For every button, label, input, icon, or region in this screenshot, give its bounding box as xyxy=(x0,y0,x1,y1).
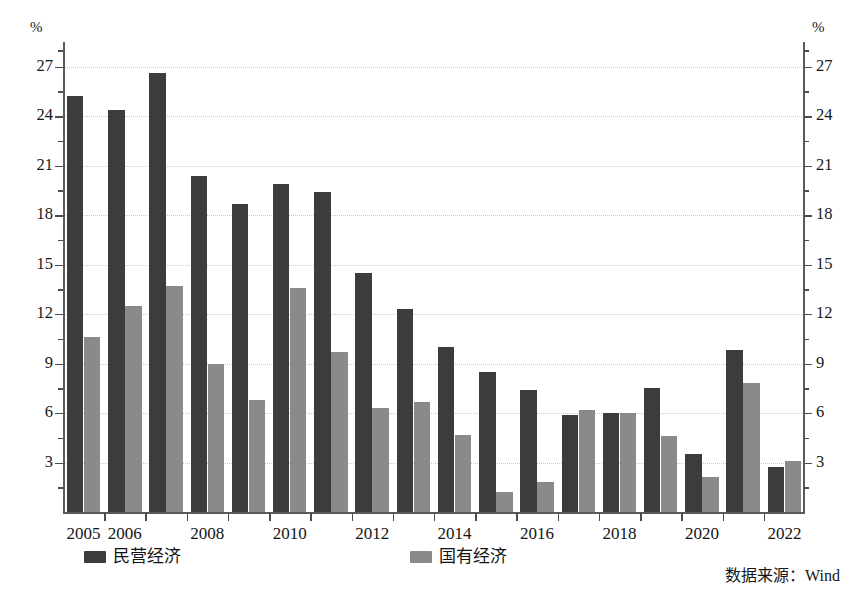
legend-label-state: 国有经济 xyxy=(439,548,507,565)
y-axis-unit-right: % xyxy=(812,20,825,35)
legend-label-private: 民营经济 xyxy=(113,548,181,565)
x-tick-label-2022: 2022 xyxy=(767,525,801,542)
bar-2019-series-1 xyxy=(644,388,661,512)
bar-2011-series-1 xyxy=(314,192,331,512)
bar-2013-series-2 xyxy=(414,402,431,512)
bar-2010-series-1 xyxy=(273,184,290,512)
y-tick-label-left-27: 27 xyxy=(37,58,54,75)
x-tick-2007 xyxy=(187,513,188,521)
bar-2014-series-2 xyxy=(455,435,472,513)
y-tick-label-left-21: 21 xyxy=(37,157,54,174)
x-tick-2018 xyxy=(640,513,641,521)
y-tick-label-left-6: 6 xyxy=(45,404,53,421)
y-axis-right-line xyxy=(803,42,805,513)
y-minor-tick-right-10.5 xyxy=(804,339,809,340)
y-tick-label-right-24: 24 xyxy=(816,107,833,124)
legend-swatch-icon-state xyxy=(410,551,432,563)
bar-2005-series-1 xyxy=(67,96,84,512)
x-tick-2015 xyxy=(516,513,517,521)
y-tick-left-3 xyxy=(55,463,63,464)
y-minor-tick-right-28 xyxy=(804,50,809,51)
bar-2009-series-1 xyxy=(232,204,249,512)
y-tick-label-right-9: 9 xyxy=(816,355,824,372)
y-minor-tick-left-7.5 xyxy=(58,388,63,389)
x-tick-2010 xyxy=(310,513,311,521)
gridline-27 xyxy=(65,67,802,69)
y-tick-right-18 xyxy=(804,215,812,216)
y-tick-right-21 xyxy=(804,166,812,167)
y-minor-tick-right-1.5 xyxy=(804,487,809,488)
y-minor-tick-left-16.5 xyxy=(58,240,63,241)
bar-2018-series-1 xyxy=(603,413,620,512)
x-tick-label-2018: 2018 xyxy=(603,525,637,542)
y-tick-label-left-18: 18 xyxy=(37,206,54,223)
y-minor-tick-right-25.5 xyxy=(804,91,809,92)
bar-2016-series-1 xyxy=(520,390,537,512)
y-tick-left-18 xyxy=(55,215,63,216)
x-tick-2006 xyxy=(145,513,146,521)
x-tick-label-2020: 2020 xyxy=(685,525,719,542)
legend-swatch-icon-private xyxy=(84,551,106,563)
bar-2012-series-1 xyxy=(355,273,372,512)
bar-2021-series-1 xyxy=(726,350,743,512)
legend-item-private-economy: 民营经济 xyxy=(84,548,181,565)
bar-2022-series-1 xyxy=(768,467,785,512)
y-minor-tick-left-25.5 xyxy=(58,91,63,92)
y-tick-label-left-15: 15 xyxy=(37,256,54,273)
y-tick-left-21 xyxy=(55,166,63,167)
bar-chart: % % 336699121215151818212124242727 20052… xyxy=(0,0,852,593)
bar-2007-series-1 xyxy=(149,73,166,512)
y-minor-tick-left-1.5 xyxy=(58,487,63,488)
bar-2013-series-1 xyxy=(397,309,414,512)
y-minor-tick-right-19.5 xyxy=(804,190,809,191)
y-minor-tick-right-13.5 xyxy=(804,289,809,290)
x-tick-label-2005: 2005 xyxy=(67,525,101,542)
y-minor-tick-left-19.5 xyxy=(58,190,63,191)
x-tick-label-2014: 2014 xyxy=(438,525,472,542)
x-tick-2008 xyxy=(228,513,229,521)
y-tick-left-6 xyxy=(55,413,63,414)
bar-2006-series-1 xyxy=(108,110,125,512)
bar-2019-series-2 xyxy=(661,436,678,512)
y-minor-tick-right-4.5 xyxy=(804,438,809,439)
x-tick-label-2008: 2008 xyxy=(190,525,224,542)
gridline-18 xyxy=(65,215,802,217)
y-tick-right-27 xyxy=(804,67,812,68)
y-tick-right-3 xyxy=(804,463,812,464)
x-tick-label-2016: 2016 xyxy=(520,525,554,542)
gridline-24 xyxy=(65,116,802,118)
y-tick-right-6 xyxy=(804,413,812,414)
x-tick-2021 xyxy=(764,513,765,521)
y-minor-tick-left-28 xyxy=(58,50,63,51)
gridline-15 xyxy=(65,265,802,267)
gridline-21 xyxy=(65,166,802,168)
bar-2015-series-2 xyxy=(496,492,513,512)
x-tick-label-2006: 2006 xyxy=(108,525,142,542)
bar-2022-series-2 xyxy=(785,461,802,512)
y-minor-tick-right-22.5 xyxy=(804,141,809,142)
bar-2007-series-2 xyxy=(166,286,183,512)
y-minor-tick-right-7.5 xyxy=(804,388,809,389)
y-tick-left-27 xyxy=(55,67,63,68)
y-minor-tick-left-13.5 xyxy=(58,289,63,290)
bar-2006-series-2 xyxy=(125,306,142,512)
y-tick-left-24 xyxy=(55,116,63,117)
bar-2020-series-1 xyxy=(685,454,702,512)
x-tick-2012 xyxy=(393,513,394,521)
y-minor-tick-left-4.5 xyxy=(58,438,63,439)
y-tick-right-24 xyxy=(804,116,812,117)
y-tick-label-left-24: 24 xyxy=(37,107,54,124)
bar-2016-series-2 xyxy=(537,482,554,512)
bar-2021-series-2 xyxy=(743,383,760,512)
y-minor-tick-left-22.5 xyxy=(58,141,63,142)
bar-2009-series-2 xyxy=(249,400,266,512)
x-tick-2005 xyxy=(104,513,105,521)
y-tick-label-left-3: 3 xyxy=(45,454,53,471)
x-tick-2013 xyxy=(434,513,435,521)
y-axis-unit-left: % xyxy=(30,20,43,35)
bar-2017-series-2 xyxy=(579,410,596,512)
y-tick-right-15 xyxy=(804,265,812,266)
y-tick-label-right-15: 15 xyxy=(816,256,833,273)
y-axis-left-line xyxy=(63,42,65,513)
bar-2014-series-1 xyxy=(438,347,455,512)
